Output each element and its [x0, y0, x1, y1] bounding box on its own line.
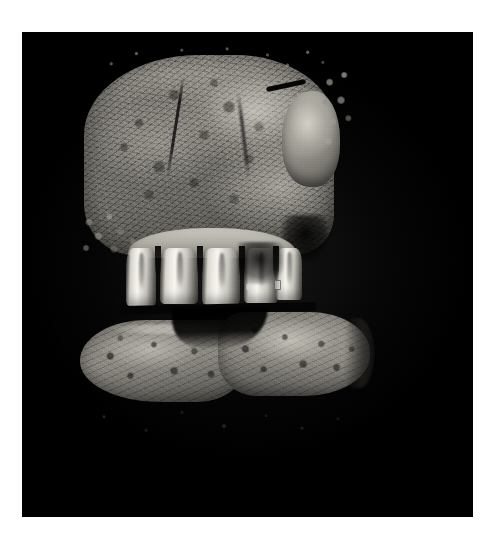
- interdental-gap-2: [197, 246, 203, 280]
- specimen-marking-2: [274, 280, 281, 290]
- tooth-1: [126, 248, 156, 306]
- decay-shadow: [238, 242, 284, 284]
- interdental-gap-1: [155, 246, 161, 280]
- lower-tissue-wisps: [68, 398, 368, 450]
- specimen-photograph: [22, 32, 473, 517]
- tooth-row: [126, 248, 302, 310]
- right-shoulder-fragments: [314, 66, 366, 156]
- top-tissue-fringe: [86, 40, 338, 74]
- specimen-stage: [22, 32, 473, 517]
- tooth-3: [202, 248, 240, 305]
- lower-right-rim-shadow: [344, 318, 374, 388]
- specimen-marking-1: [246, 284, 251, 290]
- tooth-2: [160, 248, 198, 304]
- lower-mandible-slab: [80, 312, 370, 404]
- page-root: [0, 0, 492, 540]
